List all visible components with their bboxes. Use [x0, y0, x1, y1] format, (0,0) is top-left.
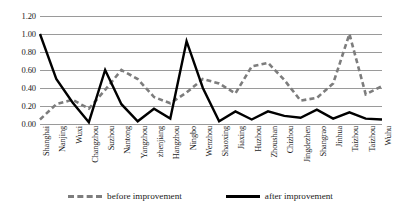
plot-area	[40, 16, 382, 124]
x-axis-tick-label: Changzhou	[89, 126, 97, 163]
x-axis-tick-label: Taizhou	[366, 126, 374, 152]
y-axis-tick-label: 1.00	[0, 30, 36, 39]
x-axis: ShanghaiNanjingWuxiChangzhouSuzhouNanton…	[40, 126, 382, 184]
x-axis-tick-label: Taizhou	[349, 126, 357, 152]
x-axis-tick-label: Huzhou	[252, 126, 260, 152]
x-axis-tick-label: Wuhu	[382, 126, 390, 146]
y-axis-tick-label: 0.60	[0, 66, 36, 75]
x-axis-tick-label: Wuxi	[73, 126, 81, 144]
series-lines	[40, 16, 382, 124]
legend-entry-after: after improvement	[226, 192, 333, 201]
y-axis-tick-label: 0.00	[0, 120, 36, 129]
x-axis-tick-label: Shaoxing	[219, 126, 227, 156]
x-axis-tick-label: Shangrao	[317, 126, 325, 156]
legend-label-after: after improvement	[265, 192, 333, 201]
x-axis-tick-label: Jinhua	[333, 126, 341, 147]
x-axis-tick-label: Ningbo	[187, 126, 195, 150]
line-chart: 0.000.200.400.600.801.001.20 ShanghaiNan…	[0, 0, 401, 212]
legend-swatch-solid-icon	[226, 195, 260, 198]
chart-legend: before improvement after improvement	[0, 188, 401, 206]
x-axis-tick-label: Chizhou	[284, 126, 292, 153]
y-axis-tick-label: 0.80	[0, 48, 36, 57]
x-axis-tick-label: Shanghai	[40, 126, 48, 156]
x-axis-tick-label: Yangzhou	[138, 126, 146, 158]
y-axis-tick-label: 0.40	[0, 84, 36, 93]
y-axis: 0.000.200.400.600.801.001.20	[0, 0, 36, 212]
legend-swatch-dashed-icon	[68, 195, 102, 198]
legend-entry-before: before improvement	[68, 192, 182, 201]
series-line-after	[40, 34, 382, 122]
x-axis-tick-label: Nanjing	[56, 126, 64, 152]
x-axis-tick-label: zhenjiang	[154, 126, 162, 157]
x-axis-tick-label: Suzhou	[105, 126, 113, 150]
x-axis-tick-label: Wenzhou	[203, 126, 211, 156]
x-axis-tick-label: Jingdezhen	[301, 126, 309, 162]
x-axis-tick-label: Hangzhou	[170, 126, 178, 159]
x-axis-tick-label: Zhoushan	[268, 126, 276, 158]
x-axis-tick-label: Nantong	[121, 126, 129, 154]
y-axis-tick-label: 0.20	[0, 102, 36, 111]
y-axis-tick-label: 1.20	[0, 12, 36, 21]
x-axis-tick-label: Jiaxing	[235, 126, 243, 149]
legend-label-before: before improvement	[107, 192, 182, 201]
